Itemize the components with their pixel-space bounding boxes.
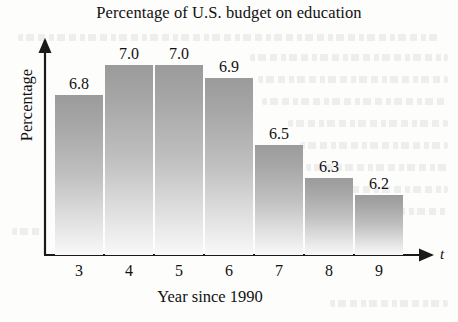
plot-area: 6.8 7.0 7.0 6.9 6.5 6.3 6.2 3 4 5 6 7 8 … [45, 55, 415, 255]
bar-t3 [55, 95, 103, 255]
bar-t8 [305, 178, 353, 255]
chart-title: Percentage of U.S. budget on education [0, 3, 458, 23]
bar-value-label-t8: 6.3 [305, 158, 353, 176]
x-axis-variable-symbol: t [440, 246, 444, 263]
bar-value-label-t3: 6.8 [55, 75, 103, 93]
bar-t5 [155, 65, 203, 255]
x-tick-label-7: 7 [255, 262, 303, 280]
bar-chart: Percentage of U.S. budget on education P… [0, 0, 458, 322]
bar-t6 [205, 78, 253, 255]
bar-value-label-t5: 7.0 [155, 45, 203, 63]
bar-t9 [355, 195, 403, 255]
bar-value-label-t9: 6.2 [355, 175, 403, 193]
y-axis-label: Percentage [17, 40, 37, 170]
x-tick-label-3: 3 [55, 262, 103, 280]
bar-value-label-t6: 6.9 [205, 58, 253, 76]
x-tick-label-8: 8 [305, 262, 353, 280]
bar-t7 [255, 145, 303, 255]
x-tick-label-5: 5 [155, 262, 203, 280]
x-tick-label-4: 4 [105, 262, 153, 280]
x-axis-label: Year since 1990 [45, 287, 375, 307]
x-tick-label-9: 9 [355, 262, 403, 280]
bar-value-label-t7: 6.5 [255, 125, 303, 143]
bar-t4 [105, 65, 153, 255]
x-tick-label-6: 6 [205, 262, 253, 280]
bar-value-label-t4: 7.0 [105, 45, 153, 63]
